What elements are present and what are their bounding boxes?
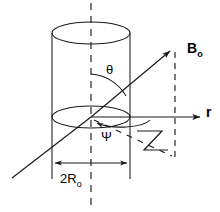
field-vector-label: Bo xyxy=(187,41,203,59)
diagram-canvas xyxy=(0,0,220,212)
diameter-label-text: 2R xyxy=(60,171,77,186)
theta-angle-label: θ xyxy=(106,63,113,76)
field-vector-label-subscript: o xyxy=(197,49,203,59)
field-vector-label-text: B xyxy=(187,40,197,56)
diameter-label-subscript: o xyxy=(77,179,82,189)
radial-axis-label: r xyxy=(206,105,211,119)
cylinder-field-diagram: Bo r θ Ψ 2Ro xyxy=(0,0,220,212)
psi-angle-label: Ψ xyxy=(101,130,112,143)
diameter-label: 2Ro xyxy=(60,172,82,189)
